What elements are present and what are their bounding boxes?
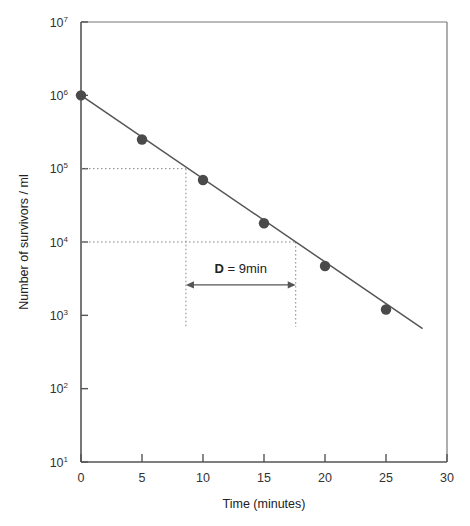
x-tick-label: 5 [139,471,146,485]
x-tick-label: 25 [379,471,393,485]
data-point [320,261,330,271]
x-tick-label: 20 [318,471,332,485]
survival-curve-chart: 101102103104105106107 051015202530 D = 9… [0,0,470,526]
x-tick-label: 10 [196,471,210,485]
x-tick-label: 30 [440,471,454,485]
x-tick-label: 0 [78,471,85,485]
data-point [198,175,208,185]
y-axis-title: Number of survivors / ml [17,174,31,309]
x-axis-title: Time (minutes) [223,497,306,511]
data-point [259,218,269,228]
data-point [381,304,391,314]
d-value-label: D = 9min [215,261,267,276]
chart-container: 101102103104105106107 051015202530 D = 9… [0,0,470,526]
x-tick-label: 15 [257,471,271,485]
data-point [137,134,147,144]
data-point [76,90,86,100]
